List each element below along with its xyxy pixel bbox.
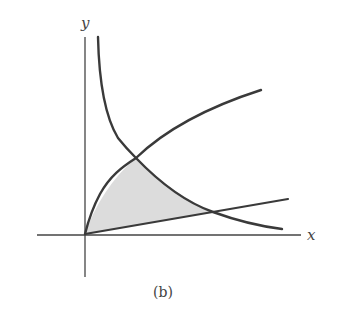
y-axis-label: y — [80, 14, 90, 32]
x-axis-label: x — [307, 226, 316, 244]
area-between-curves-diagram: y x (b) — [0, 0, 341, 314]
figure-caption: (b) — [153, 284, 173, 300]
